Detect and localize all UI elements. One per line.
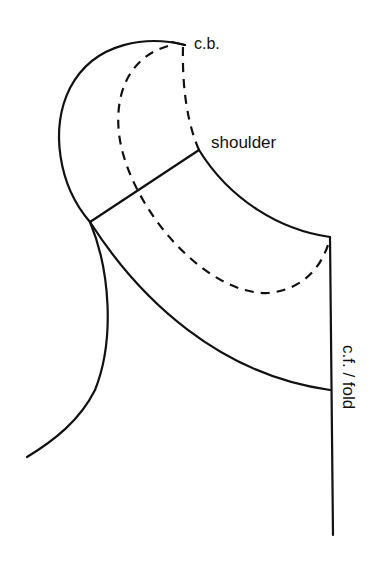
shoulder-line [90,150,199,222]
roll-line-inner [183,47,199,150]
center-back-edge [172,42,185,45]
center-back-label: c.b. [194,35,220,52]
collar-pattern-diagram: c.b. shoulder c.f. / fold [0,0,383,561]
bodice-neck-curve [90,222,330,390]
center-front-fold-line [330,237,333,535]
armhole-curve [27,222,108,457]
roll-line-outer [118,46,330,293]
outer-collar-edge [59,41,185,222]
neckline-edge [199,150,330,237]
center-front-fold-label: c.f. / fold [339,345,358,409]
shoulder-label: shoulder [211,133,277,152]
